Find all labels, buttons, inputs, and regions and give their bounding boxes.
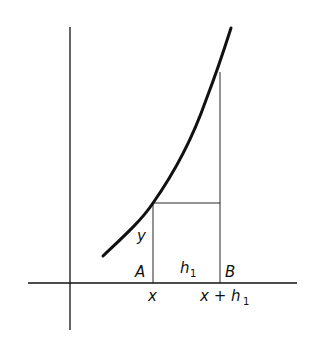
svg-text:x + h: x + h (199, 287, 241, 305)
label-a: A (134, 263, 145, 281)
label-x-plus-h1: x + h 1 (199, 287, 249, 307)
svg-text:h: h (180, 259, 190, 277)
function-curve (103, 28, 231, 256)
diagram-canvas: y A B h 1 x x + h 1 (0, 0, 314, 337)
svg-text:1: 1 (190, 268, 196, 279)
label-h1: h 1 (180, 259, 196, 279)
label-x: x (147, 287, 157, 305)
label-y: y (136, 227, 147, 245)
label-b: B (225, 263, 235, 281)
svg-text:1: 1 (243, 296, 249, 307)
